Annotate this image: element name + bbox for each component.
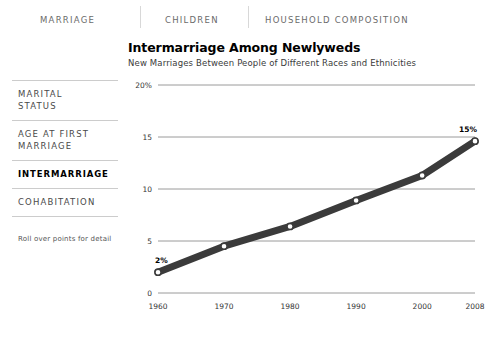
- annotation-2pct: 2%: [155, 256, 168, 265]
- chart-title: Intermarriage Among Newlyweds: [128, 40, 360, 55]
- top-navigation: MARRIAGE CHILDREN HOUSEHOLD COMPOSITION: [0, 0, 487, 30]
- y-axis-tick-label: 0: [147, 289, 152, 298]
- nav-divider: [140, 6, 141, 28]
- y-axis-tick-label: 10: [142, 185, 152, 194]
- nav-tab-marriage[interactable]: MARRIAGE: [40, 15, 95, 25]
- data-point-2000[interactable]: [419, 172, 425, 178]
- data-point-1990[interactable]: [353, 197, 359, 203]
- sidebar-item-intermarriage[interactable]: INTERMARRIAGE: [0, 161, 128, 188]
- sidebar-item-age-at-first-marriage[interactable]: AGE AT FIRST MARRIAGE: [0, 121, 128, 160]
- x-axis-tick-label: 2000: [413, 302, 432, 311]
- rollover-hint-text: Roll over points for detail: [18, 235, 128, 243]
- x-axis-labels: 196019701980199020002008: [148, 302, 484, 311]
- sidebar-item-marital-status[interactable]: MARITAL STATUS: [0, 81, 128, 120]
- nav-divider: [248, 6, 249, 28]
- y-axis-tick-label: 5: [147, 237, 152, 246]
- chart-subtitle: New Marriages Between People of Differen…: [128, 58, 416, 68]
- y-axis-tick-label: 15: [142, 133, 152, 142]
- data-point-1960[interactable]: [155, 269, 161, 275]
- data-point-1970[interactable]: [221, 243, 227, 249]
- x-axis-tick-label: 1960: [148, 302, 167, 311]
- x-axis-tick-label: 1970: [214, 302, 233, 311]
- sidebar-item-cohabitation[interactable]: COHABITATION: [0, 189, 128, 216]
- data-point-1980[interactable]: [287, 223, 293, 229]
- x-axis-tick-label: 1980: [281, 302, 300, 311]
- data-point-2008[interactable]: [472, 138, 478, 144]
- intermarriage-series-line: [158, 141, 475, 272]
- sidebar-divider: [12, 216, 118, 217]
- chart-plot-area: 05101520% 196019701980199020002008 2%15%: [128, 76, 487, 336]
- y-axis-labels: 05101520%: [135, 81, 152, 298]
- sidebar: MARITAL STATUS AGE AT FIRST MARRIAGE INT…: [0, 80, 128, 243]
- x-axis-tick-label: 1990: [347, 302, 366, 311]
- line-chart-svg: 05101520% 196019701980199020002008 2%15%: [128, 76, 487, 336]
- y-axis-tick-label: 20%: [135, 81, 152, 90]
- x-axis-tick-label: 2008: [465, 302, 484, 311]
- data-point-annotations: 2%15%: [155, 125, 477, 265]
- nav-tab-household-composition[interactable]: HOUSEHOLD COMPOSITION: [265, 15, 409, 25]
- grid-lines: [158, 85, 475, 293]
- annotation-15pct: 15%: [459, 125, 477, 134]
- nav-tab-children[interactable]: CHILDREN: [165, 15, 219, 25]
